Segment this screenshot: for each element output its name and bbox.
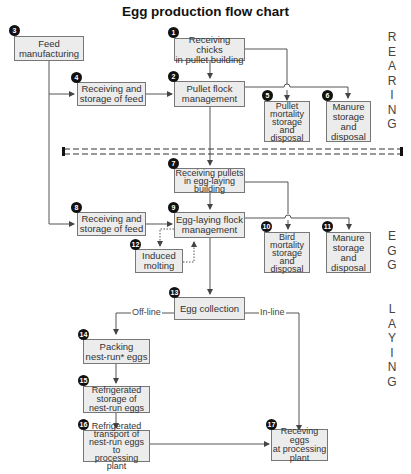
node-receiving-eggs-plant: Receving eggs at processing plant [271, 429, 328, 461]
step-badge-11: 11 [322, 221, 333, 232]
edge-label-inline: In-line [259, 307, 286, 317]
step-badge-4: 4 [71, 72, 82, 83]
phase-label-egg: E G G [385, 229, 399, 273]
step-badge-6: 6 [322, 90, 333, 101]
node-refrigerated-transport: Refrigerated transport of nest-run eggs … [83, 430, 150, 462]
step-badge-14: 14 [78, 329, 89, 340]
phase-divider [62, 147, 403, 156]
node-manure-rearing: Manure storage and disposal [326, 101, 371, 142]
step-badge-10: 10 [261, 221, 272, 232]
node-pullet-flock-management: Pullet flock management [174, 81, 245, 107]
node-egg-laying-flock-management: Egg-laying flock management [174, 212, 245, 238]
step-badge-13: 13 [169, 287, 180, 298]
node-refrigerated-storage: Refrigerated storage of nest-run eggs [83, 386, 150, 413]
step-badge-17: 17 [266, 419, 277, 430]
node-receiving-pullets: Receiving pullets in egg-laying building [174, 168, 245, 193]
step-badge-2: 2 [168, 71, 179, 82]
step-badge-9: 9 [168, 202, 179, 213]
step-badge-5: 5 [262, 90, 273, 101]
node-egg-collection: Egg collection [174, 297, 245, 320]
step-badge-16: 16 [78, 419, 89, 430]
node-receiving-feed-laying: Receiving and storage of feed [77, 212, 146, 236]
node-receiving-feed-rearing: Receiving and storage of feed [77, 82, 146, 106]
step-badge-3: 3 [9, 25, 20, 36]
step-badge-8: 8 [71, 202, 82, 213]
node-bird-mortality: Bird mortality storage and disposal [264, 232, 310, 273]
phase-label-rearing: R E A R I N G [385, 30, 399, 132]
step-badge-1: 1 [168, 27, 179, 38]
step-badge-15: 15 [78, 375, 89, 386]
phase-label-laying: L A Y I N G [385, 302, 399, 389]
step-badge-7: 7 [168, 158, 179, 169]
node-pullet-mortality: Pullet mortality storage and disposal [264, 101, 310, 142]
node-feed-manufacturing: Feed manufacturing [14, 36, 84, 61]
node-manure-laying: Manure storage and disposal [326, 232, 371, 273]
edge-label-offline: Off-line [131, 307, 162, 317]
node-induced-molting: Induced molting [135, 249, 183, 273]
node-packing-nest-run: Packing nest-run* eggs [83, 339, 150, 364]
node-receiving-chicks: Receiving chicks in pullet building [174, 38, 245, 61]
step-badge-12: 12 [130, 239, 141, 250]
